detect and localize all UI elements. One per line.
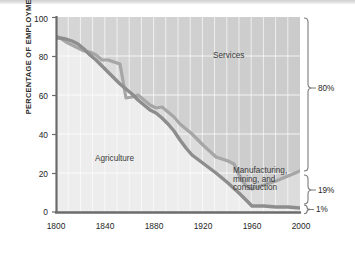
- chart-canvas: [0, 0, 355, 254]
- bracket-manufacturing: [304, 175, 312, 204]
- bracket-label-manufacturing: 19%: [318, 186, 334, 195]
- chart-figure: PERCENTAGE OF EMPLOYMENT 100 80 60 40 20…: [0, 0, 355, 254]
- annotation-manufacturing-line3: construction: [233, 183, 277, 192]
- bracket-label-agriculture: 1%: [316, 205, 328, 214]
- annotation-services: Services: [213, 52, 244, 61]
- annotation-agriculture: Agriculture: [95, 155, 134, 164]
- bracket-tick-marks: [310, 88, 316, 210]
- bracket-agriculture: [304, 205, 310, 214]
- bracket-services: [304, 18, 312, 171]
- bracket-label-services: 80%: [318, 84, 334, 93]
- annotation-manufacturing: Manufacturing, mining, and construction: [233, 167, 293, 193]
